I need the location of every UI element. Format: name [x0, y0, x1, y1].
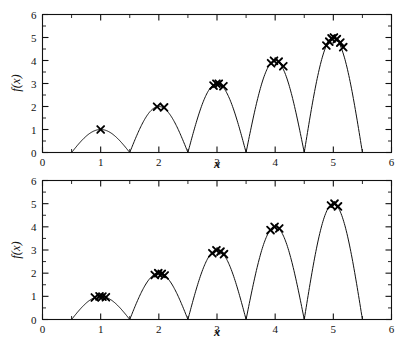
x-tick-label: 6: [389, 156, 395, 168]
plot-svg-top: 0123456 0123456 x f(x): [0, 0, 408, 170]
y-tick-label: 5: [31, 198, 37, 210]
y-tick-label: 2: [31, 267, 37, 279]
y-tick-label: 5: [31, 32, 37, 44]
x-tick-label: 2: [156, 156, 162, 168]
data-markers-bottom: [91, 200, 341, 301]
y-tick-label: 6: [31, 9, 37, 21]
y-tick-label: 0: [31, 147, 37, 159]
plot-svg-bottom: 0123456 0123456 x f(x): [0, 170, 408, 341]
figure-container: 0123456 0123456 x f(x) 0123456 0123456 x…: [0, 0, 408, 341]
x-tick-label: 0: [40, 156, 46, 168]
x-axis-label-top: x: [213, 157, 220, 170]
y-axis-label-top: f(x): [9, 74, 23, 91]
y-tick-label: 2: [31, 101, 37, 113]
x-tick-label: 2: [156, 323, 162, 335]
y-tick-label: 3: [31, 244, 37, 256]
data-curve-top: [72, 38, 363, 153]
x-tick-label: 4: [272, 156, 278, 168]
data-curve-bottom: [72, 204, 363, 320]
x-tick-label: 6: [389, 323, 395, 335]
y-tick-labels-top: 0123456: [31, 9, 37, 159]
x-tick-label: 5: [331, 323, 337, 335]
data-markers-top: [97, 34, 346, 133]
data-point-marker: [335, 203, 342, 210]
y-tick-labels-bottom: 0123456: [31, 175, 37, 326]
data-point-marker: [221, 251, 228, 258]
y-tick-label: 0: [31, 314, 37, 326]
x-tick-label: 5: [331, 156, 337, 168]
y-tick-label: 1: [31, 124, 37, 136]
x-tick-label: 1: [98, 156, 104, 168]
x-axis-label-bottom: x: [213, 325, 220, 339]
x-tick-label: 1: [98, 323, 104, 335]
y-tick-label: 6: [31, 175, 37, 187]
x-tick-label: 0: [40, 323, 46, 335]
chart-panel-top: 0123456 0123456 x f(x): [0, 0, 408, 170]
y-tick-label: 3: [31, 78, 37, 90]
y-axis-label-bottom: f(x): [9, 241, 23, 258]
y-tick-label: 1: [31, 290, 37, 302]
chart-panel-bottom: 0123456 0123456 x f(x): [0, 170, 408, 341]
x-tick-label: 4: [272, 323, 278, 335]
y-tick-label: 4: [31, 221, 37, 233]
y-tick-label: 4: [31, 55, 37, 67]
